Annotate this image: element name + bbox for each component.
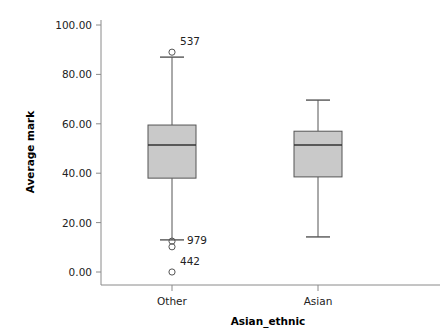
outlier-case-label: 442 <box>180 255 200 267</box>
y-tick-label: 40.00 <box>62 167 92 179</box>
box-iqr <box>148 125 196 178</box>
x-axis-ticks: OtherAsian <box>157 285 332 307</box>
y-tick-label: 0.00 <box>69 266 92 278</box>
y-tick-label: 60.00 <box>62 118 92 130</box>
whisker-low-case-label: 979 <box>187 234 207 246</box>
box-plot-chart: 0.0020.0040.0060.0080.00100.00 OtherAsia… <box>0 0 442 334</box>
box-iqr <box>294 131 342 177</box>
outlier-point <box>169 49 175 55</box>
x-tick-label-other: Other <box>157 295 187 307</box>
chart-svg: 0.0020.0040.0060.0080.00100.00 OtherAsia… <box>0 0 442 334</box>
y-tick-label: 100.00 <box>55 19 92 31</box>
box-plot-series-group: 979537442 <box>148 35 342 275</box>
y-axis-title: Average mark <box>24 110 36 193</box>
box-plot-asian <box>294 100 342 237</box>
outlier-point <box>169 269 175 275</box>
y-tick-label: 20.00 <box>62 217 92 229</box>
y-axis-ticks: 0.0020.0040.0060.0080.00100.00 <box>55 19 101 278</box>
outlier-case-label: 537 <box>180 35 200 47</box>
x-tick-label-asian: Asian <box>304 295 333 307</box>
box-plot-other: 979537442 <box>148 35 207 275</box>
x-axis-title: Asian_ethnic <box>231 315 306 328</box>
y-tick-label: 80.00 <box>62 68 92 80</box>
